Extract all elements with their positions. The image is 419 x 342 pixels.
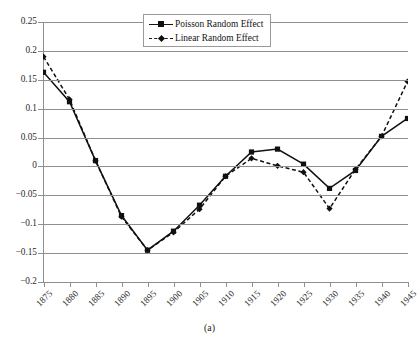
data-point-marker [327, 186, 332, 191]
y-axis-ticks: 0.250.20.150.10.050−0.05−0.1−0.15−0.2 [0, 0, 40, 282]
data-point-marker [405, 116, 408, 121]
x-axis-tick-label: 1935 [346, 289, 366, 309]
x-axis-tick-mark [356, 282, 357, 287]
x-axis-tick-mark [174, 282, 175, 287]
y-axis-tick-label: 0.1 [0, 104, 37, 113]
x-axis-tick-mark [70, 282, 71, 287]
x-axis-tick-label: 1910 [216, 289, 236, 309]
y-axis-tick-label: −0.2 [0, 277, 37, 286]
x-axis-tick-label: 1895 [138, 289, 158, 309]
x-axis-tick-label: 1940 [372, 289, 392, 309]
legend-swatch-solid-square-icon [149, 19, 173, 30]
gridline [43, 224, 408, 225]
x-axis-tick-mark [122, 282, 123, 287]
gridline [43, 253, 408, 254]
y-axis-tick-label: −0.15 [0, 248, 37, 257]
y-axis-tick-label: −0.05 [0, 191, 37, 200]
plot-area [43, 22, 408, 282]
data-point-marker [43, 70, 46, 75]
y-axis-tick-label: 0 [0, 162, 37, 171]
gridline [43, 80, 408, 81]
data-point-marker [249, 149, 254, 154]
x-axis-tick-mark [148, 282, 149, 287]
legend-label-poisson: Poisson Random Effect [175, 19, 263, 30]
gridline [43, 195, 408, 196]
x-axis-tick-mark [330, 282, 331, 287]
x-axis-tick-label: 1890 [112, 289, 132, 309]
x-axis-tick-label: 1945 [398, 289, 418, 309]
chart-legend: Poisson Random Effect Linear Random Effe… [143, 14, 271, 47]
x-axis-tick-label: 1880 [60, 289, 80, 309]
data-point-marker [275, 147, 280, 152]
gridline [43, 109, 408, 110]
y-axis-tick-label: 0.2 [0, 46, 37, 55]
gridline [43, 166, 408, 167]
x-axis-tick-label: 1920 [268, 289, 288, 309]
gridline [43, 51, 408, 52]
x-axis-tick-mark [252, 282, 253, 287]
legend-label-linear: Linear Random Effect [175, 33, 259, 44]
x-axis-tick-mark [278, 282, 279, 287]
y-axis-tick-label: −0.1 [0, 220, 37, 229]
legend-item-linear: Linear Random Effect [149, 32, 265, 45]
x-axis-tick-mark [304, 282, 305, 287]
legend-swatch-dashed-diamond-icon [149, 33, 173, 44]
x-axis-tick-label: 1930 [320, 289, 340, 309]
x-axis-tick-mark [226, 282, 227, 287]
gridline [43, 138, 408, 139]
series-line-linear [44, 57, 408, 251]
x-axis-tick-label: 1885 [86, 289, 106, 309]
x-axis-tick-label: 1925 [294, 289, 314, 309]
x-axis-tick-mark [96, 282, 97, 287]
y-axis-tick-label: 0.25 [0, 17, 37, 26]
series-lines [43, 22, 408, 282]
x-axis-tick-label: 1900 [164, 289, 184, 309]
x-axis-tick-label: 1915 [242, 289, 262, 309]
figure-caption: (a) [0, 322, 419, 333]
legend-item-poisson: Poisson Random Effect [149, 18, 265, 31]
x-axis-tick-mark [408, 282, 409, 287]
x-axis-tick-mark [382, 282, 383, 287]
y-axis-tick-label: 0.15 [0, 75, 37, 84]
x-axis-tick-label: 1875 [34, 289, 54, 309]
x-axis-tick-label: 1905 [190, 289, 210, 309]
x-axis-tick-mark [200, 282, 201, 287]
y-axis-tick-label: 0.05 [0, 133, 37, 142]
x-axis-tick-mark [44, 282, 45, 287]
figure-panel-a: 0.250.20.150.10.050−0.05−0.1−0.15−0.2 18… [0, 0, 419, 342]
